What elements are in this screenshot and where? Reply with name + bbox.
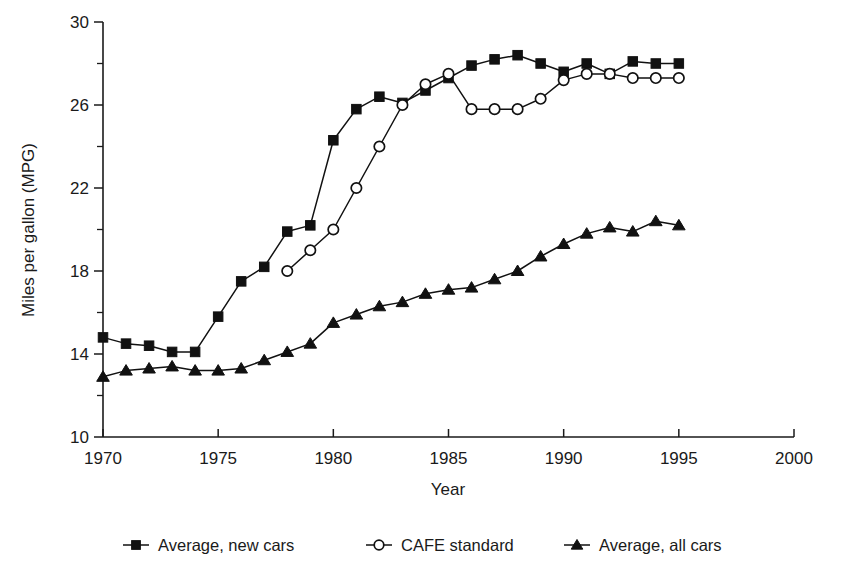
x-tick-label: 1990 <box>545 449 583 468</box>
data-point-marker <box>329 136 339 146</box>
data-point-marker <box>328 224 338 234</box>
legend-label: Average, new cars <box>158 536 294 554</box>
data-point-marker <box>305 245 315 255</box>
x-tick-label: 1985 <box>430 449 468 468</box>
data-point-marker <box>98 333 108 343</box>
data-point-marker <box>535 94 545 104</box>
x-tick-label: 1995 <box>660 449 698 468</box>
x-tick-label: 1970 <box>84 449 122 468</box>
data-point-marker <box>605 69 615 79</box>
data-point-marker <box>282 266 292 276</box>
y-tick-label: 22 <box>70 179 89 198</box>
mpg-line-chart: Miles per gallon (MPG) 101418222630 1970… <box>0 0 842 582</box>
data-point-marker <box>467 61 477 70</box>
data-point-marker <box>490 55 500 65</box>
data-point-marker <box>489 104 499 114</box>
data-point-marker <box>167 347 177 357</box>
y-axis-title: Miles per gallon (MPG) <box>19 143 38 317</box>
data-point-marker <box>513 50 523 60</box>
y-tick-label: 18 <box>70 262 89 281</box>
data-point-marker <box>582 69 592 79</box>
data-point-marker <box>283 227 293 237</box>
data-point-marker <box>351 183 361 193</box>
data-point-marker <box>651 73 661 83</box>
data-point-marker <box>190 347 200 357</box>
data-point-marker <box>651 59 661 69</box>
data-point-marker <box>536 59 546 69</box>
data-point-marker <box>132 541 141 550</box>
data-point-marker <box>374 141 384 151</box>
y-tick-label: 30 <box>70 13 89 32</box>
data-point-marker <box>466 104 476 114</box>
data-point-marker <box>397 100 407 110</box>
data-point-marker <box>674 73 684 83</box>
data-point-marker <box>352 104 362 114</box>
data-point-marker <box>628 57 638 67</box>
data-point-marker <box>628 73 638 83</box>
legend-label: CAFE standard <box>401 536 514 554</box>
data-point-marker <box>582 59 592 69</box>
data-point-marker <box>121 339 130 349</box>
data-point-marker <box>443 69 453 79</box>
data-point-marker <box>374 540 384 550</box>
chart-legend: Average, new carsCAFE standardAverage, a… <box>123 536 722 554</box>
y-tick-label: 26 <box>70 96 89 115</box>
data-point-marker <box>236 277 246 287</box>
data-point-marker <box>306 221 316 231</box>
data-point-marker <box>674 59 684 69</box>
x-tick-label: 1975 <box>199 449 237 468</box>
data-point-marker <box>144 341 154 351</box>
x-axis-title: Year <box>431 480 466 499</box>
x-tick-label: 2000 <box>775 449 813 468</box>
data-point-marker <box>420 79 430 89</box>
x-tick-label: 1980 <box>314 449 352 468</box>
y-tick-label: 14 <box>70 345 89 364</box>
legend-label: Average, all cars <box>599 536 722 554</box>
data-point-marker <box>213 312 223 322</box>
data-point-marker <box>558 75 568 85</box>
data-point-marker <box>512 104 522 114</box>
data-point-marker <box>375 92 385 102</box>
y-tick-label: 10 <box>70 428 89 447</box>
data-point-marker <box>259 262 269 272</box>
